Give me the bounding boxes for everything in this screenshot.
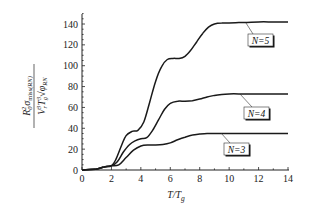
y-tick-label: 60 xyxy=(68,102,78,113)
legend-labels: N=5N=4N=3 xyxy=(221,23,275,157)
x-tick-label: 4 xyxy=(138,173,143,184)
legend-label-n-5: N=5 xyxy=(246,23,275,48)
svg-text:N=3: N=3 xyxy=(227,145,246,155)
y-tick-label: 40 xyxy=(68,123,78,134)
y-axis-title: R02σmiss(RN) Vr3Tg3√φRN xyxy=(20,64,48,128)
x-axis-title: T/Tg xyxy=(167,189,185,203)
y-tick-label: 100 xyxy=(63,60,78,71)
svg-text:Vr3Tg3√φRN: Vr3Tg3√φRN xyxy=(35,77,48,115)
x-tick-label: 6 xyxy=(168,173,173,184)
y-tick-label: 80 xyxy=(68,81,78,92)
curve-n-4 xyxy=(82,94,288,170)
y-tick-label: 0 xyxy=(73,165,78,176)
x-tick-label: 10 xyxy=(224,173,234,184)
x-tick-label: 14 xyxy=(283,173,293,184)
x-tick-label: 12 xyxy=(254,173,264,184)
svg-text:N=4: N=4 xyxy=(247,109,266,119)
chart-canvas: 02468101214 020406080100120140 N=5N=4N=3… xyxy=(0,0,311,208)
legend-label-n-4: N=4 xyxy=(240,94,271,121)
y-tick-label: 20 xyxy=(68,144,78,155)
x-axis-title-sub: g xyxy=(181,194,185,203)
x-tick-label: 2 xyxy=(109,173,114,184)
svg-text:N=5: N=5 xyxy=(251,36,270,46)
legend-label-n-3: N=3 xyxy=(221,133,251,157)
x-tick-label: 8 xyxy=(197,173,202,184)
y-tick-label: 140 xyxy=(63,19,78,30)
y-tick-label: 120 xyxy=(63,39,78,50)
x-tick-label: 0 xyxy=(80,173,85,184)
svg-text:R02σmiss(RN): R02σmiss(RN) xyxy=(20,76,34,117)
